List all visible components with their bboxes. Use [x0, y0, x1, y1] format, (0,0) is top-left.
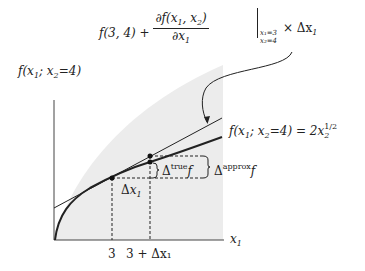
curve-label-sup: 1/2 [324, 122, 337, 131]
formula-rhs: × Δx1 [283, 22, 317, 37]
point-tangent [148, 154, 153, 159]
times-dx: × Δx [283, 21, 312, 35]
partial-num: ∂f(x [155, 11, 177, 25]
partial-den: ∂x [172, 29, 185, 43]
delta-approx-delta: Δ [214, 164, 223, 178]
delta-approx-f: f [251, 164, 255, 178]
partial-num-mid: , x [183, 11, 197, 25]
times-dx-sub: 1 [312, 28, 317, 37]
diagram: f(3, 4) + ∂f(x1, x2) ∂x1 x₁=3 x₂=4 × Δx1… [0, 0, 365, 271]
y-label-end: =4) [59, 64, 81, 78]
delta-approx-sup: approx [223, 162, 251, 171]
evaluation-bar [257, 8, 258, 38]
delta-x-sub: 1 [136, 190, 141, 199]
eval-condition-1: x₁=3 [260, 30, 277, 37]
delta-true-f: f [188, 164, 192, 178]
delta-true-label: Δtruef [162, 163, 192, 177]
y-label-text: f(x [18, 64, 34, 78]
formula-lhs: f(3, 4) + [99, 26, 150, 40]
formula: f(3, 4) + ∂f(x1, x2) ∂x1 [99, 22, 209, 45]
delta-approx-label: Δapproxf [214, 163, 255, 177]
curve-label-end: =4) = 2x [270, 124, 324, 138]
delta-x-label: ΔΔxx1 [121, 184, 142, 199]
curve-label-mid: ; x [250, 124, 265, 138]
partial-den-sub: 1 [185, 36, 190, 45]
y-label-mid: ; x [39, 64, 54, 78]
x-axis-label: x1 [230, 233, 242, 248]
shaded-region [54, 65, 223, 240]
tick-label-3: 3 [108, 248, 116, 260]
curve-label-text: f(x [229, 124, 245, 138]
x-label-text: x [230, 232, 237, 246]
x-label-sub: 1 [237, 239, 242, 248]
delta-true-delta: Δ [162, 164, 171, 178]
y-axis-label: f(x1; x2=4) [18, 65, 81, 80]
point-curve [148, 160, 153, 165]
delta-true-sup: true [171, 162, 188, 171]
partial-num-end: ) [202, 11, 207, 25]
curve-label: f(x1; x2=4) = 2x21/2 [229, 123, 337, 140]
partial-derivative: ∂f(x1, x2) ∂x1 [153, 12, 208, 45]
point-base [110, 176, 115, 181]
eval-condition-2: x₂=4 [260, 38, 277, 45]
curve-label-sub3: 2 [324, 131, 329, 140]
tick-label-3-plus-dx: 3 + Δx₁ [126, 248, 172, 260]
